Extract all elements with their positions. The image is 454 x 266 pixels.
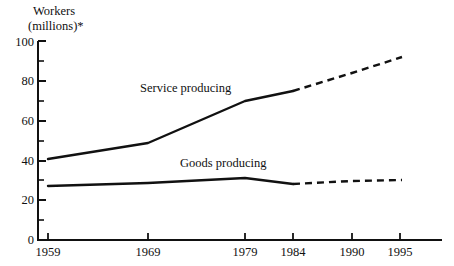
chart-container: Workers (millions)* 100 80 60 40 20 0 19… (0, 0, 454, 266)
x-ticks (48, 233, 400, 240)
series-line-goods-producing-projected (293, 180, 402, 184)
axis-lines (37, 41, 442, 240)
series-line-service-producing-historical (48, 91, 293, 159)
plot-area (0, 0, 454, 266)
y-major-ticks (38, 41, 46, 200)
series-line-service-producing-projected (293, 57, 402, 91)
series-line-goods-producing-historical (48, 178, 293, 186)
